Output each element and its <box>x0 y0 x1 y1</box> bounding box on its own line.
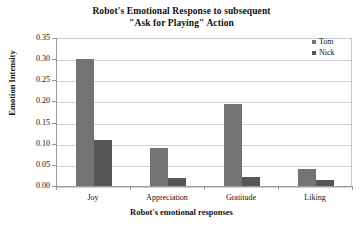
bar-nick-joy <box>94 140 112 187</box>
legend-item-tom[interactable]: Tom <box>312 37 360 47</box>
x-tick-mark <box>204 186 205 190</box>
legend-item-nick[interactable]: Nick <box>312 48 360 58</box>
x-tick-label-joy: Joy <box>56 193 130 202</box>
bar-nick-appreciation <box>168 178 186 186</box>
x-tick-mark <box>352 186 353 190</box>
y-tick-label: 0.30 <box>16 55 50 63</box>
gridline <box>57 81 351 82</box>
y-tick-label: 0.35 <box>16 34 50 42</box>
x-tick-label-liking: Liking <box>278 193 352 202</box>
bar-tom-gratitude <box>224 104 242 186</box>
chart-legend: TomNick <box>312 37 360 59</box>
x-tick-mark <box>56 186 57 190</box>
bar-tom-appreciation <box>150 148 168 186</box>
y-tick-label: 0.20 <box>16 97 50 105</box>
bar-tom-liking <box>298 169 316 186</box>
x-tick-label-appreciation: Appreciation <box>130 193 204 202</box>
legend-label: Tom <box>319 38 334 46</box>
legend-swatch-icon <box>312 40 316 44</box>
y-tick-label: 0.25 <box>16 76 50 84</box>
x-tick-mark <box>278 186 279 190</box>
y-tick-label: 0.00 <box>16 182 50 190</box>
y-tick-label: 0.15 <box>16 119 50 127</box>
legend-swatch-icon <box>312 51 316 55</box>
chart-title-line-1: Robot's Emotional Response to subsequent <box>0 6 363 18</box>
chart-title-line-2: "Ask for Playing" Action <box>0 18 363 30</box>
x-tick-mark <box>130 186 131 190</box>
x-tick-label-gratitude: Gratitude <box>204 193 278 202</box>
y-tick-label: 0.05 <box>16 161 50 169</box>
gridline <box>57 102 351 103</box>
bar-tom-joy <box>76 59 94 186</box>
gridline <box>57 60 351 61</box>
plot-area <box>56 38 352 186</box>
bar-nick-gratitude <box>242 177 260 186</box>
x-axis-title: Robot's emotional responses <box>0 207 363 217</box>
y-tick-label: 0.10 <box>16 140 50 148</box>
gridline <box>57 124 351 125</box>
chart-title: Robot's Emotional Response to subsequent… <box>0 6 363 29</box>
legend-label: Nick <box>319 49 335 57</box>
